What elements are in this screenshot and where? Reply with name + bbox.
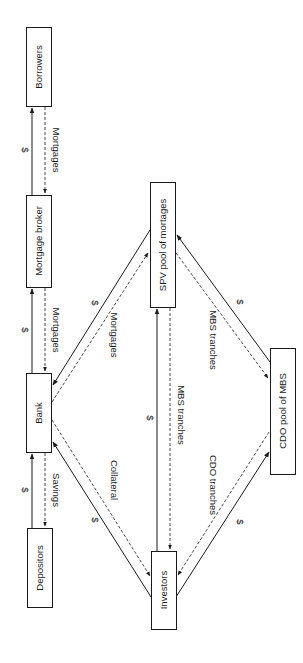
svg-text:MBS tranches: MBS tranches <box>208 310 219 370</box>
svg-text:CDO tranches: CDO tranches <box>208 455 219 515</box>
edge-spv-cdo-mbs: MBS tranches <box>176 253 268 378</box>
svg-text:Bank: Bank <box>33 402 44 424</box>
svg-text:CDO pool of MBS: CDO pool of MBS <box>277 373 288 449</box>
node-spv: SPV pool of mortages <box>151 183 176 308</box>
svg-text:Collateral: Collateral <box>109 460 120 500</box>
svg-text:$: $ <box>145 415 156 421</box>
svg-text:Mortgage broker: Mortgage broker <box>33 206 44 276</box>
edge-depositors-bank-money: $ <box>20 454 32 528</box>
svg-text:$: $ <box>20 327 31 333</box>
edge-spv-investors-mbs: MBS tranches <box>170 308 187 549</box>
node-cdo: CDO pool of MBS <box>271 349 296 475</box>
svg-text:MBS tranches: MBS tranches <box>176 385 187 445</box>
svg-text:$: $ <box>90 517 101 523</box>
edge-bank-investors-collateral: Collateral <box>52 420 150 576</box>
svg-text:Investors: Investors <box>158 570 169 609</box>
node-mortgage-broker: Mortgage broker <box>27 196 52 288</box>
node-investors: Investors <box>152 552 177 630</box>
svg-text:Mortgages: Mortgages <box>109 313 120 358</box>
edge-borrowers-broker-mortgages: Mortgages <box>45 107 62 193</box>
edge-cdo-investors-cdo: CDO tranches <box>178 432 269 575</box>
svg-text:$: $ <box>235 519 246 525</box>
svg-text:$: $ <box>20 147 31 153</box>
edge-cdo-spv-money: $ <box>177 235 270 362</box>
edge-investors-bank-money: $ <box>53 442 151 597</box>
edge-bank-depositors-savings: Savings <box>45 453 62 526</box>
node-depositors: Depositors <box>28 529 53 608</box>
svg-text:Mortgages: Mortgages <box>51 308 62 353</box>
edge-investors-cdo-money: $ <box>176 452 269 597</box>
svg-text:$: $ <box>20 487 31 493</box>
edge-bank-broker-money: $ <box>20 289 32 373</box>
svg-text:Savings: Savings <box>51 473 62 507</box>
svg-text:SPV pool of mortages: SPV pool of mortages <box>157 199 168 292</box>
securitization-flow-diagram: $ Mortgages $ Mortgages $ Savings $ Mort… <box>0 0 303 663</box>
svg-text:$: $ <box>90 300 101 306</box>
svg-text:Borrowers: Borrowers <box>33 45 44 89</box>
edge-broker-bank-mortgages: Mortgages <box>45 288 62 371</box>
edge-investors-spv-money: $ <box>145 309 157 551</box>
svg-text:$: $ <box>235 299 246 305</box>
svg-text:Depositors: Depositors <box>34 545 45 591</box>
edge-broker-borrowers-money: $ <box>20 108 32 195</box>
edge-bank-spv-mortgages: Mortgages <box>52 253 148 402</box>
node-bank: Bank <box>27 374 52 453</box>
svg-text:Mortgages: Mortgages <box>51 128 62 173</box>
edge-spv-bank-money: $ <box>53 230 150 385</box>
node-borrowers: Borrowers <box>27 28 52 107</box>
